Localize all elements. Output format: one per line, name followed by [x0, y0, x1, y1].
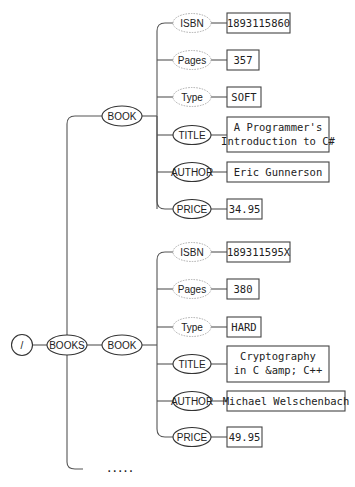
field-value: HARD: [231, 321, 256, 333]
field-label: PRICE: [177, 204, 208, 215]
field-value: Michael Welschenbach: [223, 395, 349, 407]
field-author: AUTHOR Michael Welschenbach: [171, 391, 349, 411]
field-label: AUTHOR: [171, 396, 213, 407]
field-value-line-1: Cryptography: [240, 350, 316, 362]
field-label: ISBN: [180, 247, 203, 258]
field-value-line-2: in C &amp; C++: [234, 364, 323, 376]
books-node: BOOKS: [47, 335, 87, 355]
field-isbn: ISBN 1893115860: [173, 13, 290, 33]
field-label: ISBN: [180, 18, 203, 29]
field-label: Pages: [178, 55, 206, 66]
field-value: SOFT: [231, 91, 257, 103]
field-label: PRICE: [177, 432, 208, 443]
book-label: BOOK: [108, 340, 137, 351]
field-label: AUTHOR: [171, 167, 213, 178]
field-label: Type: [181, 92, 203, 103]
field-label: TITLE: [178, 359, 206, 370]
book-2-fields: ISBN 189311595X Pages 380 Type HARD TITL…: [171, 242, 349, 447]
more-items-ellipsis: .....: [107, 459, 134, 475]
field-value: Eric Gunnerson: [234, 166, 323, 178]
field-value: 357: [234, 54, 253, 66]
field-value-line-1: A Programmer's: [234, 121, 323, 133]
field-value: 380: [234, 283, 253, 295]
field-isbn: ISBN 189311595X: [173, 242, 291, 262]
book-node-1: BOOK: [102, 106, 142, 126]
field-title: TITLE A Programmer's Introduction to C#: [173, 117, 336, 152]
field-value: 49.95: [229, 431, 261, 443]
field-value: 1893115860: [227, 17, 290, 29]
xml-tree-diagram: / BOOKS BOOK BOOK ISBN 1893115860 Pages …: [0, 0, 355, 487]
root-node: /: [12, 335, 33, 356]
field-value: 189311595X: [227, 246, 291, 258]
field-author: AUTHOR Eric Gunnerson: [171, 162, 329, 182]
book-1-fields: ISBN 1893115860 Pages 357 Type SOFT TITL…: [171, 13, 336, 219]
field-label: Type: [181, 322, 203, 333]
books-label: BOOKS: [49, 340, 85, 351]
book-node-2: BOOK: [102, 335, 142, 355]
book-label: BOOK: [108, 111, 137, 122]
field-label: Pages: [178, 284, 206, 295]
root-label: /: [21, 340, 24, 351]
field-value: 34.95: [229, 203, 261, 215]
field-title: TITLE Cryptography in C &amp; C++: [173, 346, 329, 382]
field-value-line-2: Introduction to C#: [221, 135, 335, 147]
field-label: TITLE: [178, 130, 206, 141]
